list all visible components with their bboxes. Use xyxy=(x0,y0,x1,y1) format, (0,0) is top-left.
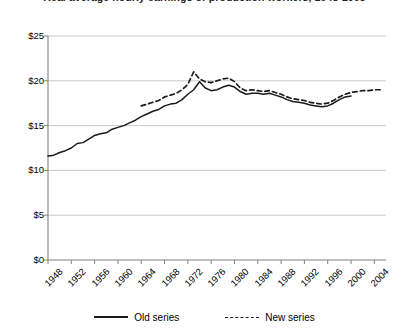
x-axis-tick-label: 1960 xyxy=(112,266,135,289)
y-axis-tick-label: $10 xyxy=(0,164,44,175)
y-axis-tick-label: $20 xyxy=(0,75,44,86)
legend-item-new-series: New series xyxy=(225,312,314,323)
x-axis-tick-label: 1976 xyxy=(205,266,228,289)
solid-line-icon xyxy=(94,316,128,318)
series-line-old-series xyxy=(48,82,351,156)
chart-canvas xyxy=(48,36,386,260)
y-axis-tick-label: $25 xyxy=(0,30,44,41)
y-axis-tick-label: $0 xyxy=(0,254,44,265)
legend-label-new-series: New series xyxy=(265,312,314,323)
x-axis-tick-label: 1988 xyxy=(275,266,298,289)
chart-title: Real average hourly earnings of producti… xyxy=(0,0,409,3)
chart-container: Real average hourly earnings of producti… xyxy=(0,0,409,336)
x-axis-tick-label: 2004 xyxy=(368,266,391,289)
x-axis-tick-label: 1964 xyxy=(135,266,158,289)
dashed-line-icon xyxy=(225,317,259,318)
x-axis-tick-label: 1956 xyxy=(89,266,112,289)
x-axis-tick-label: 1992 xyxy=(298,266,321,289)
x-axis-tick-label: 2000 xyxy=(345,266,368,289)
legend-label-old-series: Old series xyxy=(134,312,179,323)
x-axis-tick-label: 1984 xyxy=(252,266,275,289)
chart-legend: Old series New series xyxy=(0,306,409,328)
x-axis-tick-label: 1980 xyxy=(229,266,252,289)
legend-item-old-series: Old series xyxy=(94,312,179,323)
x-axis-tick-label: 1968 xyxy=(159,266,182,289)
x-axis-tick-label: 1952 xyxy=(65,266,88,289)
x-axis-tick-label: 1996 xyxy=(322,266,345,289)
series-line-new-series xyxy=(141,72,380,106)
y-axis-tick-label: $5 xyxy=(0,209,44,220)
x-axis-labels: 1948195219561960196419681972197619801984… xyxy=(48,262,393,310)
plot-area xyxy=(48,36,386,260)
x-axis-tick-label: 1948 xyxy=(42,266,65,289)
x-axis-tick-label: 1972 xyxy=(182,266,205,289)
y-axis-tick-label: $15 xyxy=(0,120,44,131)
